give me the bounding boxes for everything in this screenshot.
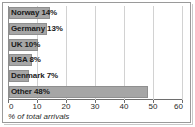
bar-label-other: Other 48% [11,86,50,98]
plot-region: Norway 14%Germany 13%UK 10%USA 8%Denmark… [8,6,182,100]
bar-row: Other 48% [9,86,182,98]
x-tick-label-60: 60 [174,102,183,111]
bar-label-uk: UK 10% [11,39,40,51]
bar-row: Denmark 7% [9,70,182,82]
x-tick-label-30: 30 [91,102,100,111]
bar-rows: Norway 14%Germany 13%UK 10%USA 8%Denmark… [9,6,182,99]
bar-label-denmark: Denmark 7% [11,70,58,82]
bar-label-norway: Norway 14% [11,7,57,19]
bar-row: Norway 14% [9,7,182,19]
x-tick-label-50: 50 [149,102,158,111]
bar-label-usa: USA 8% [11,54,41,66]
bar-chart-figure: Norway 14%Germany 13%UK 10%USA 8%Denmark… [0,0,195,127]
bar-row: USA 8% [9,54,182,66]
x-tick-label-10: 10 [33,102,42,111]
bar-row: UK 10% [9,39,182,51]
x-tick-label-0: 0 [9,102,13,111]
x-axis: 0102030405060 [8,100,182,112]
bar-row: Germany 13% [9,23,182,35]
bar-label-germany: Germany 13% [11,23,63,35]
x-axis-title: % of total arrivals [8,112,69,121]
x-tick-label-40: 40 [120,102,129,111]
x-tick-label-20: 20 [62,102,71,111]
gridline-60 [182,6,183,100]
